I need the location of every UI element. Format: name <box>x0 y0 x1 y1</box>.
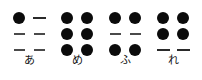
braille-entry: あ <box>6 0 52 70</box>
braille-dot-row <box>9 26 49 42</box>
braille-cell-a <box>9 0 49 50</box>
braille-dot-5 <box>125 26 145 42</box>
filled-dot-icon <box>129 12 141 24</box>
braille-dot-row <box>57 10 97 26</box>
braille-dot-1 <box>153 10 173 26</box>
braille-dot-4 <box>125 10 145 26</box>
filled-dot-icon <box>61 28 73 40</box>
braille-dot-row <box>153 26 193 42</box>
filled-dot-icon <box>157 28 169 40</box>
braille-dot-4 <box>173 10 193 26</box>
filled-dot-icon <box>81 12 93 24</box>
filled-dot-icon <box>109 12 121 24</box>
kana-label: あ <box>24 54 35 70</box>
braille-dot-2 <box>153 26 173 42</box>
empty-dot-icon <box>110 33 121 35</box>
filled-dot-icon <box>129 44 141 56</box>
braille-dot-2 <box>105 26 125 42</box>
filled-dot-icon <box>177 28 189 40</box>
braille-cell-re <box>153 0 193 50</box>
filled-dot-icon <box>81 44 93 56</box>
braille-dot-1 <box>9 10 29 26</box>
braille-dot-1 <box>57 10 77 26</box>
kana-label: れ <box>168 54 179 70</box>
braille-entry: れ <box>150 0 196 70</box>
filled-dot-icon <box>81 28 93 40</box>
empty-dot-icon <box>14 33 25 35</box>
braille-dot-5 <box>173 26 193 42</box>
filled-dot-icon <box>13 12 25 24</box>
braille-dot-2 <box>57 26 77 42</box>
braille-dot-row <box>57 26 97 42</box>
braille-dot-5 <box>29 26 49 42</box>
kana-label: ふ <box>120 54 131 70</box>
empty-dot-icon <box>33 17 46 19</box>
empty-dot-icon <box>177 49 190 51</box>
braille-dot-2 <box>9 26 29 42</box>
braille-dot-1 <box>105 10 125 26</box>
filled-dot-icon <box>61 12 73 24</box>
empty-dot-icon <box>14 49 25 51</box>
braille-entry: め <box>54 0 100 70</box>
braille-dot-5 <box>77 26 97 42</box>
empty-dot-icon <box>157 49 170 51</box>
braille-cell-me <box>57 0 97 50</box>
braille-dot-row <box>9 10 49 26</box>
empty-dot-icon <box>130 33 141 35</box>
empty-dot-icon <box>34 33 45 35</box>
braille-dot-4 <box>29 10 49 26</box>
filled-dot-icon <box>177 12 189 24</box>
braille-dot-row <box>153 10 193 26</box>
braille-dot-row <box>105 26 145 42</box>
filled-dot-icon <box>157 12 169 24</box>
braille-dot-row <box>105 10 145 26</box>
braille-dot-4 <box>77 10 97 26</box>
kana-label: め <box>72 54 83 70</box>
empty-dot-icon <box>34 49 45 51</box>
braille-cell-fu <box>105 0 145 50</box>
braille-entry: ふ <box>102 0 148 70</box>
braille-chart: あ め <box>0 0 202 80</box>
